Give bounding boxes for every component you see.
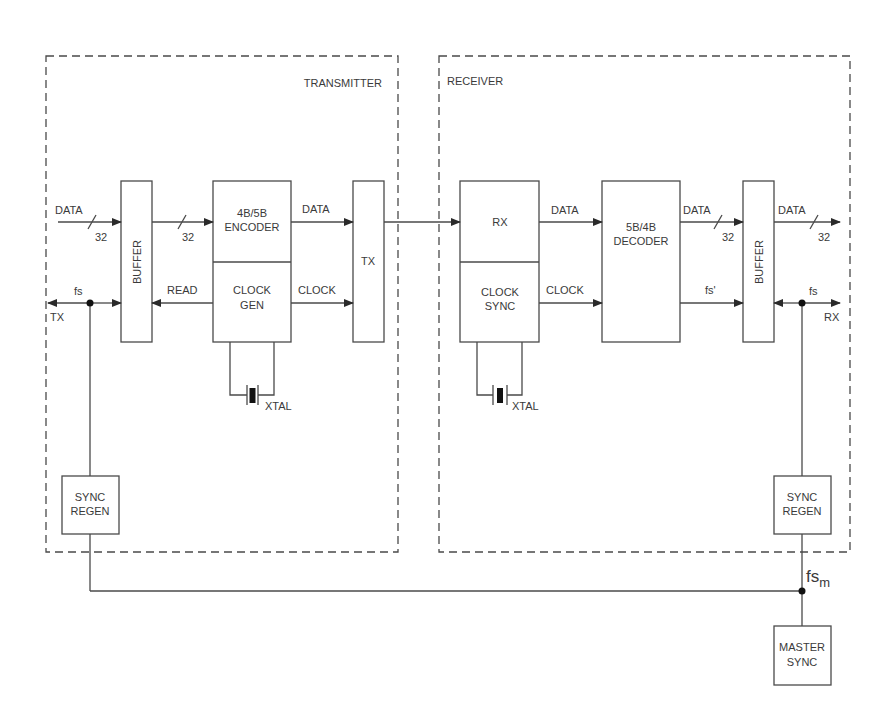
- buffer-to-encoder-width: 32: [182, 231, 194, 243]
- decoder-label-1: 5B/4B: [626, 221, 656, 233]
- clock-label: CLOCK: [298, 284, 337, 296]
- encoder-label-2: ENCODER: [224, 221, 279, 233]
- rx-output-bus-width: 32: [818, 231, 830, 243]
- rx-xtal-label: XTAL: [512, 400, 539, 412]
- sync-block-diagram: TRANSMITTER RECEIVER DATA 32 32 READ fs …: [0, 0, 891, 712]
- fs-prime-label: fs': [705, 284, 716, 296]
- tx-data-in-label: DATA: [55, 204, 83, 216]
- tx-port-label: TX: [50, 311, 65, 323]
- master-sync-2: SYNC: [787, 656, 818, 668]
- tx-fs-junction: [87, 300, 94, 307]
- read-label: READ: [167, 284, 198, 296]
- rx-fs-junction: [799, 300, 806, 307]
- encoder-label-1: 4B/5B: [237, 207, 267, 219]
- clocksync-label-2: SYNC: [485, 300, 516, 312]
- tx-xtal-label: XTAL: [265, 400, 292, 412]
- fsm-junction: [799, 588, 806, 595]
- rx-sync-regen-1: SYNC: [787, 491, 818, 503]
- clockgen-label-2: GEN: [240, 299, 264, 311]
- clocksync-label-1: CLOCK: [481, 286, 520, 298]
- rx-block-label: RX: [492, 216, 508, 228]
- fsm-label: fsm: [806, 567, 830, 590]
- tx-sync-regen-1: SYNC: [75, 491, 106, 503]
- transmitter-label: TRANSMITTER: [304, 77, 382, 89]
- rx-clock-label: CLOCK: [546, 284, 585, 296]
- decoder-label-2: DECODER: [613, 235, 668, 247]
- tx-sync-regen-2: REGEN: [70, 505, 109, 517]
- decoder-block: [602, 181, 680, 342]
- rx-buffer-label: BUFFER: [753, 240, 765, 284]
- tx-block-label: TX: [361, 255, 376, 267]
- rx-output-data-label: DATA: [778, 204, 806, 216]
- rx-data-label: DATA: [551, 204, 579, 216]
- rx-sync-regen-2: REGEN: [782, 505, 821, 517]
- master-sync-1: MASTER: [779, 641, 825, 653]
- tx-data-in-width: 32: [95, 231, 107, 243]
- tx-buffer-label: BUFFER: [131, 240, 143, 284]
- clockgen-label-1: CLOCK: [233, 284, 272, 296]
- decoder-bus-width: 32: [722, 231, 734, 243]
- decoder-data-label: DATA: [683, 204, 711, 216]
- transmitter-region: [46, 56, 398, 552]
- rx-fs-label: fs: [809, 285, 818, 297]
- tx-fs-label: fs: [74, 285, 83, 297]
- receiver-label: RECEIVER: [447, 75, 503, 87]
- encoder-data-label: DATA: [302, 203, 330, 215]
- rx-port-label: RX: [824, 311, 840, 323]
